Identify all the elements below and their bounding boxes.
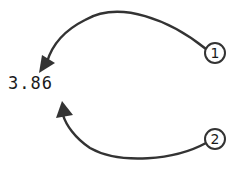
arrow-1-head-icon — [39, 55, 55, 73]
arrow-1 — [47, 12, 206, 62]
marker-1-label: 1 — [211, 45, 220, 61]
arrow-2-head-icon — [56, 101, 73, 118]
marker-2: 2 — [205, 129, 225, 149]
marker-1: 1 — [205, 43, 225, 63]
diagram-canvas: 1 2 3.86 — [0, 0, 243, 174]
value-label: 3.86 — [8, 73, 53, 93]
marker-2-label: 2 — [211, 131, 220, 147]
arrow-2 — [63, 115, 206, 159]
